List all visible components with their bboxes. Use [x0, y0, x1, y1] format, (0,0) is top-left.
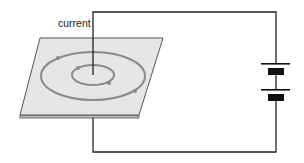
battery-short-plate — [268, 94, 284, 101]
diagram-canvas — [0, 0, 304, 163]
current-label: current — [58, 18, 91, 29]
battery-long-plate — [261, 89, 290, 91]
battery-short-plate — [268, 68, 284, 75]
battery-long-plate — [261, 63, 290, 65]
field-direction-marker — [107, 81, 111, 85]
field-direction-marker — [56, 56, 60, 60]
field-direction-marker — [76, 66, 80, 70]
field-direction-marker — [133, 89, 137, 93]
